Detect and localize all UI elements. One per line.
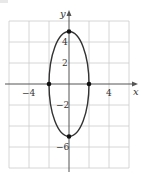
covertex-right bbox=[87, 82, 92, 87]
y-axis-arrow-icon bbox=[67, 10, 72, 16]
vertex-top bbox=[67, 29, 72, 34]
x-tick-neg4: −4 bbox=[22, 88, 36, 98]
x-axis-label: x bbox=[133, 86, 139, 97]
x-tick-4: 4 bbox=[106, 88, 112, 98]
y-tick-neg6: −6 bbox=[56, 142, 70, 152]
vertex-bottom bbox=[67, 134, 72, 139]
y-axis-label: y bbox=[59, 8, 66, 19]
ellipse-graph: x y −4 4 4 2 −2 −6 bbox=[0, 0, 144, 174]
y-tick-4: 4 bbox=[62, 37, 68, 47]
covertex-left bbox=[47, 82, 52, 87]
y-tick-neg2: −2 bbox=[56, 100, 69, 110]
y-tick-2: 2 bbox=[62, 58, 68, 68]
